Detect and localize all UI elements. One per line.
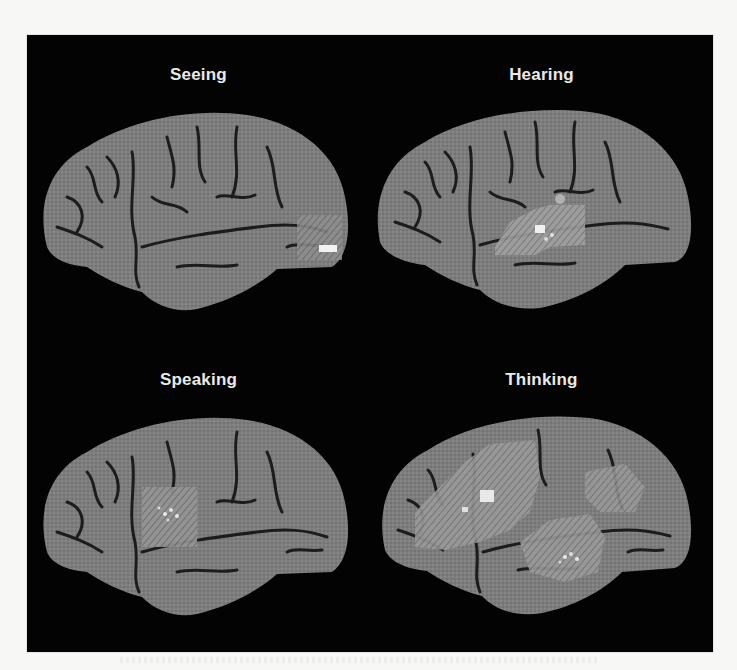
activation-overlay-speaking — [142, 487, 197, 547]
brain-image-speaking — [27, 402, 370, 642]
brain-image-seeing — [27, 97, 370, 337]
panel-label-seeing: Seeing — [27, 65, 370, 85]
page: Seeing — [0, 0, 737, 670]
panel-label-thinking: Thinking — [370, 370, 713, 390]
panel-label-hearing: Hearing — [370, 65, 713, 85]
panel-seeing: Seeing — [27, 35, 370, 335]
panel-thinking: Thinking — [370, 340, 713, 640]
page-bleed-through — [120, 657, 600, 663]
brain-figure-panel: Seeing — [27, 35, 713, 652]
brain-image-hearing — [370, 97, 713, 337]
brain-silhouette — [43, 113, 348, 310]
panel-hearing: Hearing — [370, 35, 713, 335]
panel-speaking: Speaking — [27, 340, 370, 640]
brain-image-thinking — [370, 402, 713, 642]
activation-overlay-seeing — [297, 215, 342, 260]
panel-label-speaking: Speaking — [27, 370, 370, 390]
